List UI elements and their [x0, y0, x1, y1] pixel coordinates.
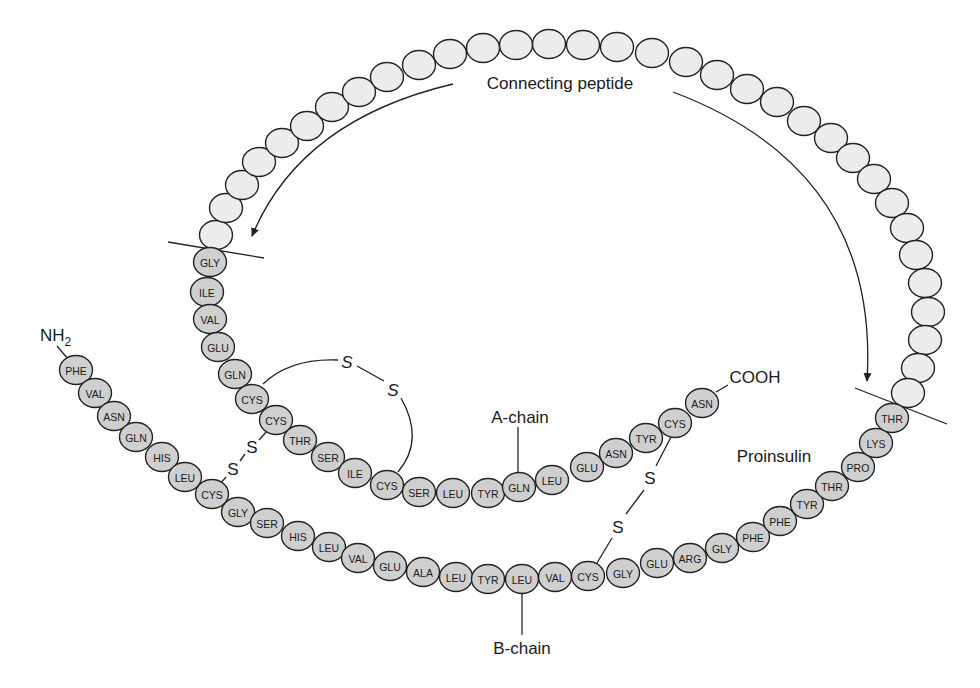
residue-label: LEU [175, 472, 195, 484]
peptide-residue [731, 75, 764, 104]
residue-label: GLN [508, 482, 530, 494]
peptide-residue [909, 269, 942, 298]
residue-label: TYR [636, 433, 657, 445]
residue-label: SER [408, 487, 430, 499]
connecting-peptide-label: Connecting peptide [487, 74, 634, 93]
cooh-label: COOH [730, 368, 781, 387]
peptide-residue [434, 40, 467, 69]
residue-label: CYS [265, 415, 287, 427]
residue-label: GLY [228, 507, 248, 519]
residue-label: GLY [712, 543, 732, 555]
residue-label: PHE [769, 516, 791, 528]
residue-label: GLU [646, 558, 668, 570]
residue-label: ILE [199, 287, 215, 299]
sulfur-atom-label: S [227, 460, 238, 479]
residue-label: CYS [241, 394, 263, 406]
peptide-residue [371, 63, 404, 92]
residue-label: PRO [847, 462, 870, 474]
sulfur-atom-label: S [341, 353, 353, 372]
residue-label: GLU [379, 561, 401, 573]
residue-label: THR [821, 481, 843, 493]
b-chain: PHEVALASNGLNHISLEUCYSGLYSERHISLEUVALGLUA… [60, 356, 909, 594]
residue-label: CYS [577, 571, 599, 583]
residue-label: LEU [512, 574, 532, 586]
residue-label: LEU [319, 542, 339, 554]
residue-label: VAL [348, 553, 367, 565]
b-chain-label: B-chain [493, 639, 551, 658]
residue-label: ALA [413, 567, 433, 579]
residue-label: PHE [742, 532, 764, 544]
peptide-residue [761, 88, 794, 117]
sulfur-atom-label: S [387, 381, 399, 400]
residue-label: VAL [85, 388, 104, 400]
cooh-bond [716, 385, 728, 392]
residue-label: VAL [200, 314, 219, 326]
peptide-residue [533, 30, 566, 59]
residue-label: ASN [605, 448, 627, 460]
residue-label: LEU [446, 572, 466, 584]
residue-label: THR [881, 413, 903, 425]
residue-label: GLY [200, 257, 220, 269]
peptide-residue [200, 221, 233, 250]
peptide-residue [701, 61, 734, 90]
residue-label: SER [256, 518, 278, 530]
peptide-residue [912, 298, 945, 327]
residue-label: ASN [691, 398, 713, 410]
peptide-residue [343, 78, 376, 107]
residue-label: GLY [613, 568, 633, 580]
peptide-residue [900, 241, 933, 270]
peptide-residue [467, 34, 500, 63]
peptide-residue [403, 51, 436, 80]
sulfur-atom-label: S [246, 438, 257, 457]
proinsulin-diagram: GLYILEVALGLUGLNCYSCYSTHRSERILECYSSERLEUT… [0, 0, 980, 688]
nh2-label: NH2 [40, 326, 72, 349]
peptide-residue [567, 31, 600, 60]
residue-label: HIS [153, 452, 171, 464]
residue-label: GLN [224, 369, 246, 381]
peptide-residue [891, 214, 924, 243]
sulfur-atom-label: S [644, 469, 655, 488]
residue-label: LYS [866, 438, 885, 450]
residue-label: CYS [664, 418, 686, 430]
peptide-residue [670, 48, 703, 77]
a-chain-label: A-chain [491, 408, 549, 427]
sulfur-atom-label: S [612, 518, 623, 537]
residue-label: GLU [576, 462, 598, 474]
peptide-residue [500, 31, 533, 60]
residue-label: GLN [125, 432, 147, 444]
residue-label: LEU [542, 475, 562, 487]
residue-label: CYS [376, 480, 398, 492]
residue-label: TYR [478, 488, 499, 500]
residue-label: LEU [443, 488, 463, 500]
residue-label: TYR [797, 499, 818, 511]
residue-label: THR [289, 435, 311, 447]
cleavage-arrow-left [252, 84, 453, 236]
peptide-residue [909, 326, 942, 355]
peptide-residue [601, 33, 634, 62]
residue-label: TYR [478, 574, 499, 586]
residue-label: ILE [347, 468, 363, 480]
residue-label: GLU [207, 342, 229, 354]
residue-label: CYS [201, 489, 223, 501]
peptide-residue [636, 39, 669, 68]
residue-label: VAL [545, 572, 564, 584]
residue-label: ARG [679, 553, 702, 565]
proinsulin-label: Proinsulin [737, 447, 812, 466]
residue-label: PHE [65, 365, 87, 377]
residue-label: SER [317, 452, 339, 464]
peptide-residue [892, 379, 925, 408]
residue-label: HIS [289, 531, 307, 543]
residue-label: ASN [103, 411, 125, 423]
peptide-residue [788, 107, 821, 136]
